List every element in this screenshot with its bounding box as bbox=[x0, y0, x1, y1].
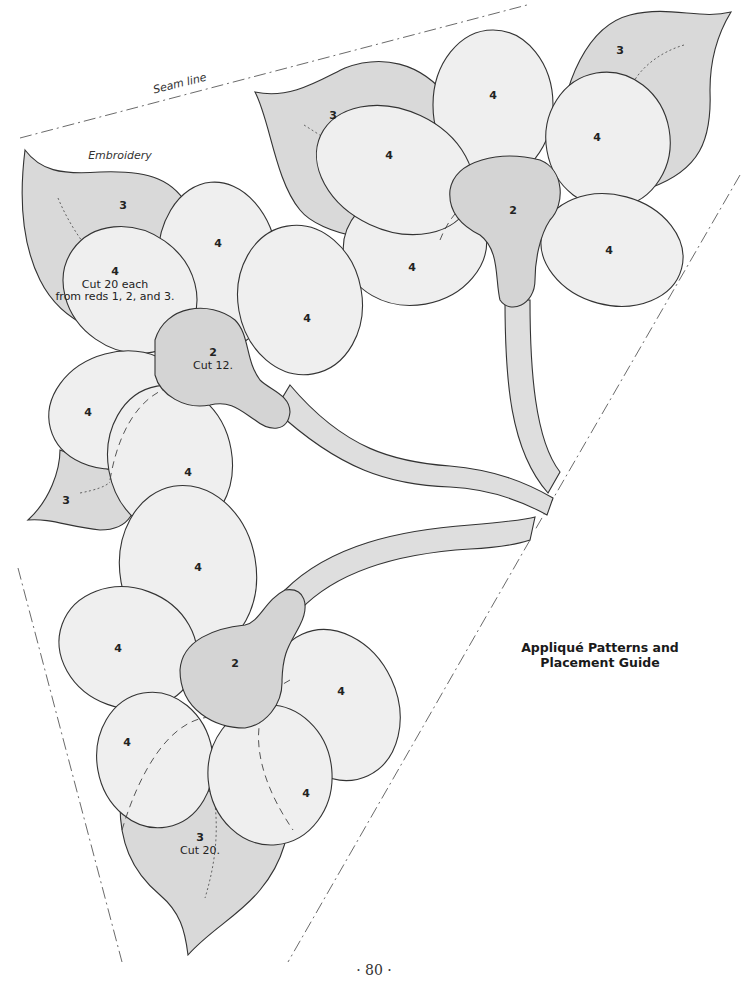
center-cut-note: 2 Cut 12. bbox=[183, 347, 243, 372]
page-title-line1: Appliqué Patterns and bbox=[520, 640, 680, 655]
center-cut-text: Cut 12. bbox=[183, 360, 243, 373]
petal-label: 4 bbox=[599, 245, 619, 258]
page-title: Appliqué Patterns and Placement Guide bbox=[520, 640, 680, 670]
leaf-label: 3 bbox=[323, 110, 343, 123]
petal-label: 4 bbox=[117, 737, 137, 750]
petal-cut-line2: from reds 1, 2, and 3. bbox=[40, 291, 190, 304]
petal-label: 4 bbox=[188, 562, 208, 575]
petal-label: 4 bbox=[78, 407, 98, 420]
petal-label: 4 bbox=[178, 467, 198, 480]
page-number: · 80 · bbox=[344, 962, 404, 978]
leaf-label: 3 bbox=[56, 495, 76, 508]
center-label: 2 bbox=[225, 658, 245, 671]
petal-label: 4 bbox=[587, 132, 607, 145]
petal-label: 4 bbox=[208, 238, 228, 251]
petal-label: 4 bbox=[402, 262, 422, 275]
petal-label: 4 bbox=[297, 313, 317, 326]
stem-upper bbox=[505, 300, 560, 493]
leaf-label: 3 bbox=[170, 832, 230, 845]
petal-cut-note: 4 Cut 20 each from reds 1, 2, and 3. bbox=[40, 266, 190, 304]
embroidery-label: Embroidery bbox=[80, 150, 160, 163]
center-label: 2 bbox=[503, 205, 523, 218]
petal-label: 4 bbox=[379, 150, 399, 163]
page-title-line2: Placement Guide bbox=[520, 655, 680, 670]
center-label: 2 bbox=[183, 347, 243, 360]
stem-lower bbox=[285, 517, 535, 610]
petal-label: 4 bbox=[296, 788, 316, 801]
leaf-label: 3 bbox=[610, 45, 630, 58]
leaf-cut-note: 3 Cut 20. bbox=[170, 832, 230, 857]
leaf-label: 3 bbox=[113, 200, 133, 213]
applique-diagram: .leaf { fill: #d9d9d9; stroke: #333; str… bbox=[0, 0, 749, 984]
petal-label: 4 bbox=[331, 686, 351, 699]
petal-label: 4 bbox=[483, 90, 503, 103]
petal-label: 4 bbox=[40, 266, 190, 279]
leaf-cut-text: Cut 20. bbox=[170, 845, 230, 858]
petal-label: 4 bbox=[108, 643, 128, 656]
